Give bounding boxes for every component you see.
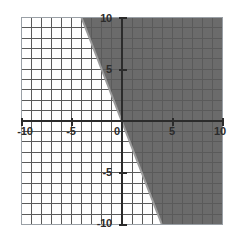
x-tick-label-0: 0 xyxy=(106,126,120,137)
x-tick-label--10: -10 xyxy=(10,126,40,137)
y-tick-label-5: 5 xyxy=(86,64,112,75)
y-tick-label--10: -10 xyxy=(86,218,112,229)
x-tick-label-5: 5 xyxy=(157,126,187,137)
coordinate-plane-svg xyxy=(0,0,239,238)
coordinate-plane-figure: -10 -5 0 5 10 10 5 -5 -10 xyxy=(0,0,239,238)
x-tick-label--5: -5 xyxy=(56,126,86,137)
x-tick-label-10: 10 xyxy=(214,126,238,137)
y-tick-label-10: 10 xyxy=(86,13,112,24)
y-tick-label--5: -5 xyxy=(86,167,112,178)
